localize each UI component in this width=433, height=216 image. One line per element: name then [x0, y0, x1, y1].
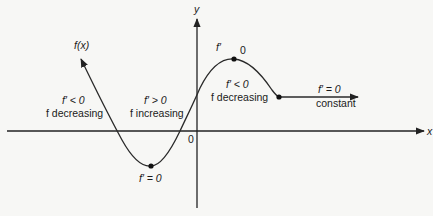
right-behavior-label: f decreasing	[211, 91, 268, 103]
constant-behavior-label: constant	[316, 97, 356, 109]
constant-derivative-label: f′ = 0	[318, 83, 341, 95]
left-derivative-label: f′ < 0	[62, 94, 85, 106]
increasing-derivative-label: f′ > 0	[144, 94, 167, 106]
derivative-diagram: x y 0 f(x) f′ < 0 f decreasing f′ > 0 f …	[0, 0, 433, 216]
maximum-label-zero: 0	[240, 44, 246, 56]
curve-label: f(x)	[74, 39, 89, 51]
plateau-start-point	[276, 94, 281, 99]
maximum-label-fprime: f′	[216, 41, 222, 53]
minimum-label: f′ = 0	[139, 172, 162, 184]
right-derivative-label: f′ < 0	[226, 78, 249, 90]
maximum-point	[231, 56, 236, 61]
origin-label: 0	[188, 133, 194, 145]
y-axis-label: y	[193, 3, 200, 15]
increasing-behavior-label: f increasing	[130, 107, 184, 119]
minimum-point	[148, 163, 153, 168]
x-axis-label: x	[426, 125, 433, 137]
left-behavior-label: f decreasing	[46, 107, 103, 119]
